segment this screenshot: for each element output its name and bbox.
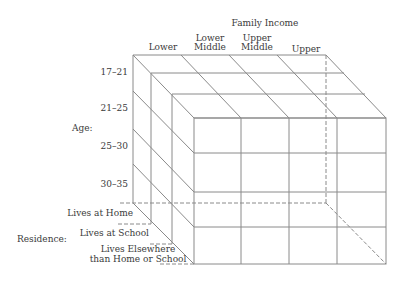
age-17-21: 17–21 bbox=[86, 67, 128, 77]
income-lower-label: Lower bbox=[138, 42, 188, 52]
age-30-35: 30–35 bbox=[86, 179, 128, 189]
income-upper-middle-line2: Middle bbox=[232, 42, 282, 52]
age-25-30: 25–30 bbox=[86, 141, 128, 151]
residence-elsewhere-line1: Lives Elsewhere bbox=[88, 244, 188, 254]
residence-home: Lives at Home bbox=[40, 208, 133, 218]
income-lower-middle-line2: Middle bbox=[185, 42, 235, 52]
family-income-title: Family Income bbox=[220, 18, 310, 28]
income-upper-label: Upper bbox=[281, 44, 331, 54]
age-21-25: 21–25 bbox=[86, 103, 128, 113]
residence-school: Lives at School bbox=[40, 228, 149, 238]
residence-elsewhere-line2: than Home or School bbox=[82, 254, 194, 264]
age-axis-label: Age: bbox=[72, 123, 93, 133]
